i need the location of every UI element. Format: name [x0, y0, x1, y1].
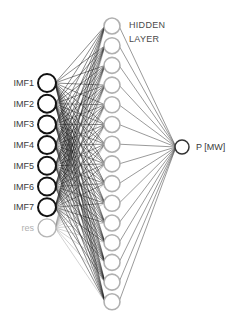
hidden-node — [104, 97, 120, 113]
connection-edge — [119, 46, 176, 147]
connection-edge — [119, 144, 176, 147]
hidden-node — [104, 274, 120, 290]
input-node — [38, 157, 56, 175]
input-node-label: res — [0, 223, 34, 233]
hidden-layer-label-line1: HIDDEN — [129, 20, 165, 30]
connection-edge — [119, 105, 176, 147]
hidden-layer-nodes — [104, 18, 120, 310]
hidden-node — [104, 294, 120, 310]
connection-edge — [119, 147, 176, 223]
hidden-node — [104, 215, 120, 231]
hidden-node — [104, 38, 120, 54]
connection-edge — [119, 147, 176, 184]
connection-edge — [119, 26, 176, 147]
hidden-node — [104, 254, 120, 270]
hidden-node — [104, 156, 120, 172]
input-node-label: IMF5 — [0, 161, 34, 171]
hidden-node — [104, 235, 120, 251]
connection-edge — [119, 147, 176, 282]
input-node-label: IMF7 — [0, 202, 34, 212]
hidden-node — [104, 77, 120, 93]
output-label: P [MW] — [196, 142, 225, 152]
input-node — [38, 115, 56, 133]
hidden-node — [104, 117, 120, 133]
output-layer-node — [175, 140, 189, 154]
output-node — [175, 140, 189, 154]
connection-edge — [119, 85, 176, 147]
input-node-label: IMF1 — [0, 78, 34, 88]
connection-edge — [119, 65, 176, 147]
hidden-node — [104, 176, 120, 192]
input-node — [38, 219, 56, 237]
connection-edge — [119, 125, 176, 148]
connection-edge — [55, 26, 105, 124]
input-node — [38, 178, 56, 196]
connection-edge — [119, 147, 176, 262]
hidden-layer-label-line2: LAYER — [129, 34, 159, 44]
input-node — [38, 198, 56, 216]
input-node-label: IMF4 — [0, 140, 34, 150]
input-node-label: IMF2 — [0, 99, 34, 109]
connection-edge — [119, 147, 176, 302]
input-node-label: IMF3 — [0, 119, 34, 129]
input-node — [38, 74, 56, 92]
hidden-to-output-connections — [119, 26, 176, 302]
hidden-node — [104, 195, 120, 211]
input-to-hidden-connections — [55, 26, 105, 302]
input-node — [38, 95, 56, 113]
connection-edge — [55, 26, 105, 104]
hidden-node — [104, 18, 120, 34]
neural-network-diagram — [0, 0, 238, 325]
input-node — [38, 136, 56, 154]
hidden-node — [104, 57, 120, 73]
input-layer-nodes — [38, 74, 56, 237]
input-node-label: IMF6 — [0, 182, 34, 192]
hidden-node — [104, 136, 120, 152]
